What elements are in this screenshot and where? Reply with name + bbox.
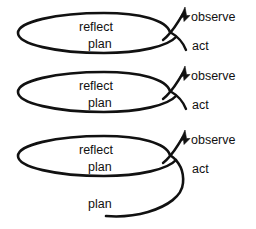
loop-3-label-plan: plan (88, 160, 112, 174)
loop-1-label-plan: plan (88, 37, 112, 51)
spiral-iteration-diagram: reflect plan observe act reflect plan ob… (0, 0, 256, 229)
loop-3-label-observe: observe (191, 133, 236, 147)
diagram-canvas: reflect plan observe act reflect plan ob… (0, 0, 256, 229)
loop-2-label-act: act (192, 98, 209, 112)
loop-2-label-observe: observe (191, 69, 236, 83)
loop-1-label-reflect: reflect (79, 20, 114, 34)
loop-3-label-reflect: reflect (79, 143, 114, 157)
tail-label-plan: plan (88, 197, 112, 211)
loop-1-label-act: act (192, 39, 209, 53)
loop-1-label-observe: observe (191, 10, 236, 24)
loop-3-label-act: act (192, 162, 209, 176)
loop-2-label-reflect: reflect (79, 79, 114, 93)
loop-2-label-plan: plan (88, 96, 112, 110)
canvas-background (0, 0, 256, 229)
